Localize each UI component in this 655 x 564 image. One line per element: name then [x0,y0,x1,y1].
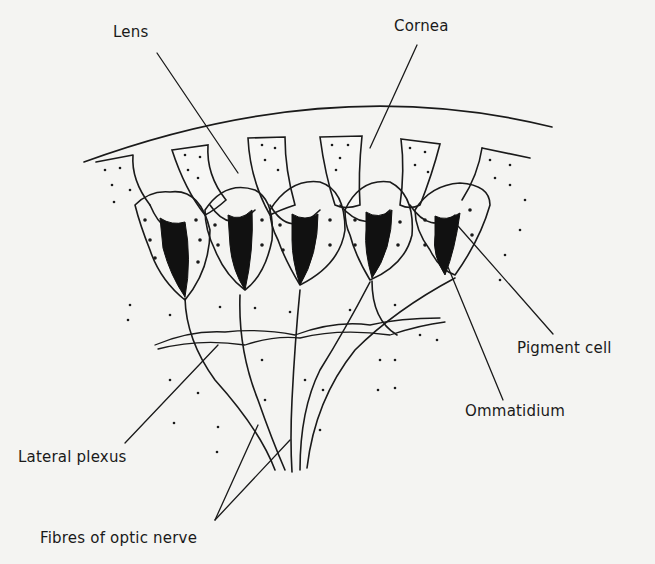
compound-eye-diagram [0,0,655,564]
leader-lines [125,45,553,520]
label-pigment-cell: Pigment cell [517,339,612,357]
label-cornea: Cornea [394,17,449,35]
label-ommatidium: Ommatidium [465,402,565,420]
optic-nerve-fibres [185,278,455,472]
pigment-regions [160,210,460,297]
stipple-dots [104,144,527,454]
label-lens: Lens [113,23,148,41]
label-lateral-plexus: Lateral plexus [18,448,127,466]
label-fibres-optic-nerve: Fibres of optic nerve [40,529,197,547]
lateral-plexus-lines [155,318,445,349]
lens-units [96,136,530,215]
